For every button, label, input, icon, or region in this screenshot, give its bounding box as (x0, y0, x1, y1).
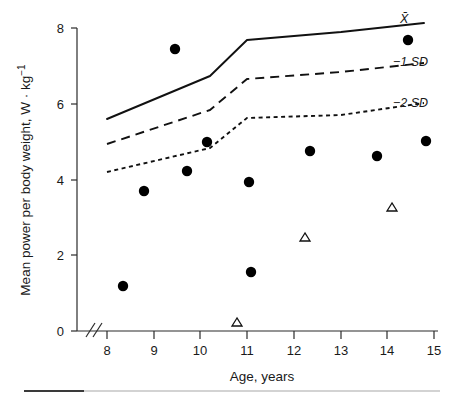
legend-label-minus1sd: −1 SD (393, 55, 428, 69)
y-tick-label-6: 6 (57, 97, 64, 112)
x-tick-label-13: 13 (334, 343, 348, 358)
x-axis-title: Age, years (230, 369, 295, 384)
series-line-mean (107, 23, 424, 119)
data-point-triangle (232, 318, 242, 326)
chart-canvas: 0 2 4 6 8 8 9 10 11 12 13 14 15 Age, yea… (0, 0, 463, 403)
y-axis-title-exponent: −1 (16, 64, 27, 76)
x-tick-label-9: 9 (150, 343, 157, 358)
y-axis-title-group: Mean power per body weight, W · kg−1 (16, 64, 33, 296)
x-tick-label-14: 14 (380, 343, 394, 358)
y-tick-label-2: 2 (57, 248, 64, 263)
x-tick-label-8: 8 (103, 343, 110, 358)
data-point-circle (202, 137, 212, 147)
footer-rule-dark (24, 390, 84, 392)
y-tick-label-4: 4 (57, 173, 64, 188)
axis-group (71, 28, 438, 339)
x-tick-label-11: 11 (240, 343, 254, 358)
data-point-triangle (387, 203, 397, 211)
svg-text:Mean power per body weight, W: Mean power per body weight, W · kg−1 (16, 64, 33, 296)
footer-rule-light (84, 390, 440, 392)
legend-label-minus2sd: −2 SD (393, 96, 428, 110)
series-line-minus2sd (107, 103, 424, 172)
scatter-triangles-group (232, 203, 397, 326)
data-point-circle (246, 267, 256, 277)
data-point-circle (139, 186, 149, 196)
y-axis-title-main: Mean power per body weight, W · kg (18, 76, 33, 296)
data-point-circle (182, 166, 192, 176)
x-tick-label-15: 15 (427, 343, 441, 358)
y-tick-label-0: 0 (57, 324, 64, 339)
y-tick-label-8: 8 (57, 21, 64, 36)
y-tick-labels: 0 2 4 6 8 (57, 21, 64, 339)
data-point-circle (244, 177, 254, 187)
x-tick-label-12: 12 (287, 343, 301, 358)
data-point-circle (403, 35, 413, 45)
series-line-minus1sd (107, 63, 424, 144)
x-tick-labels: 8 9 10 11 12 13 14 15 (103, 343, 441, 358)
data-point-circle (170, 44, 180, 54)
x-tick-label-10: 10 (193, 343, 207, 358)
scatter-circles-group (118, 35, 431, 291)
figure-container: 0 2 4 6 8 8 9 10 11 12 13 14 15 Age, yea… (0, 0, 463, 403)
data-point-triangle (300, 233, 310, 241)
legend-label-mean: X̄ (399, 12, 409, 26)
data-point-circle (421, 136, 431, 146)
data-point-circle (305, 146, 315, 156)
data-point-circle (118, 281, 128, 291)
axis-break-icon (86, 323, 102, 337)
data-point-circle (372, 151, 382, 161)
